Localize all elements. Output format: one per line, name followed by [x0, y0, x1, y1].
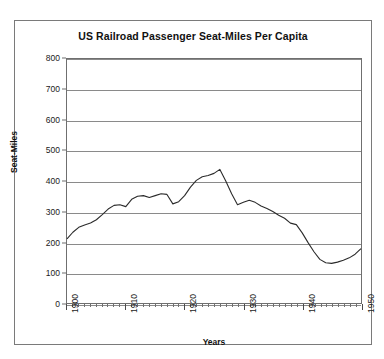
x-minor-tick [332, 304, 333, 307]
x-minor-tick [238, 304, 239, 307]
x-minor-tick [202, 304, 203, 307]
x-minor-tick [155, 304, 156, 307]
x-minor-tick [84, 304, 85, 307]
x-minor-tick [220, 304, 221, 307]
x-major-tick [362, 304, 363, 310]
plot-area [66, 58, 362, 304]
x-minor-tick [321, 304, 322, 307]
x-minor-tick [149, 304, 150, 307]
x-axis-title: Years [66, 337, 362, 347]
x-minor-tick [208, 304, 209, 307]
y-tick-label: 400 [46, 176, 60, 186]
x-axis: 190019101920193019401950 [66, 304, 362, 356]
y-tick-label: 300 [46, 207, 60, 217]
x-minor-tick [90, 304, 91, 307]
figure-frame: US Railroad Passenger Seat-Miles Per Cap… [14, 20, 372, 345]
x-minor-tick [344, 304, 345, 307]
x-minor-tick [119, 304, 120, 307]
x-minor-tick [267, 304, 268, 307]
x-tick-label: 1910 [129, 294, 139, 313]
x-tick-label: 1940 [307, 294, 317, 313]
x-minor-tick [214, 304, 215, 307]
x-tick-label: 1900 [70, 294, 80, 313]
x-major-tick [125, 304, 126, 310]
x-minor-tick [279, 304, 280, 307]
y-tick-label: 0 [55, 299, 60, 309]
x-minor-tick [261, 304, 262, 307]
x-minor-tick [96, 304, 97, 307]
x-minor-tick [173, 304, 174, 307]
x-minor-tick [102, 304, 103, 307]
y-tick-label: 700 [46, 84, 60, 94]
x-major-tick [66, 304, 67, 310]
x-minor-tick [143, 304, 144, 307]
x-minor-tick [273, 304, 274, 307]
x-minor-tick [107, 304, 108, 307]
x-major-tick [303, 304, 304, 310]
y-axis: 8007006005004003002001000 [29, 58, 66, 304]
x-major-tick [184, 304, 185, 310]
x-minor-tick [226, 304, 227, 307]
y-tick-label: 200 [46, 238, 60, 248]
y-tick-label: 500 [46, 145, 60, 155]
x-minor-tick [326, 304, 327, 307]
y-tick-label: 600 [46, 115, 60, 125]
x-tick-label: 1950 [366, 294, 376, 313]
x-minor-tick [167, 304, 168, 307]
x-minor-tick [350, 304, 351, 307]
x-minor-tick [297, 304, 298, 307]
x-minor-tick [113, 304, 114, 307]
chart-title: US Railroad Passenger Seat-Miles Per Cap… [15, 30, 371, 42]
y-tick-label: 100 [46, 268, 60, 278]
x-minor-tick [291, 304, 292, 307]
x-tick-label: 1920 [188, 294, 198, 313]
x-minor-tick [232, 304, 233, 307]
data-series-line [67, 59, 361, 303]
x-minor-tick [338, 304, 339, 307]
chart-page: US Railroad Passenger Seat-Miles Per Cap… [0, 0, 384, 359]
y-tick-label: 800 [46, 53, 60, 63]
x-minor-tick [356, 304, 357, 307]
x-tick-label: 1930 [248, 294, 258, 313]
x-minor-tick [285, 304, 286, 307]
y-axis-title: Seat-Miles [9, 131, 19, 173]
x-minor-tick [178, 304, 179, 307]
x-minor-tick [161, 304, 162, 307]
x-major-tick [244, 304, 245, 310]
